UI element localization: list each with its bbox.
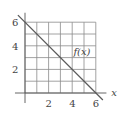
x-axis-label: x (111, 87, 117, 98)
x-tick-label: 4 (69, 98, 75, 109)
x-tick-label: 2 (46, 98, 52, 109)
chart: 246246 x f(x) (0, 0, 131, 116)
function-label: f(x) (72, 46, 90, 57)
y-tick-label: 4 (12, 41, 18, 52)
y-tick-label: 2 (12, 64, 18, 75)
y-tick-label: 6 (12, 17, 18, 28)
x-tick-label: 6 (93, 98, 99, 109)
